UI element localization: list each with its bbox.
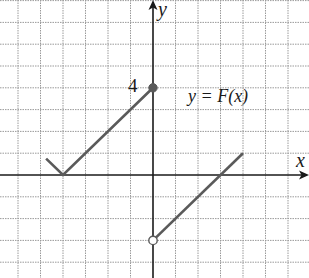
function-graph	[0, 0, 309, 278]
curves	[46, 84, 243, 245]
x-axis-label: x	[296, 149, 305, 172]
open-endpoint-circle	[149, 236, 157, 244]
function-piece-1	[46, 88, 153, 175]
tick-label-4: 4	[128, 75, 138, 97]
y-axis-label: y	[158, 0, 167, 21]
function-label: y = F(x)	[188, 86, 248, 107]
closed-endpoint-dot	[149, 84, 157, 92]
